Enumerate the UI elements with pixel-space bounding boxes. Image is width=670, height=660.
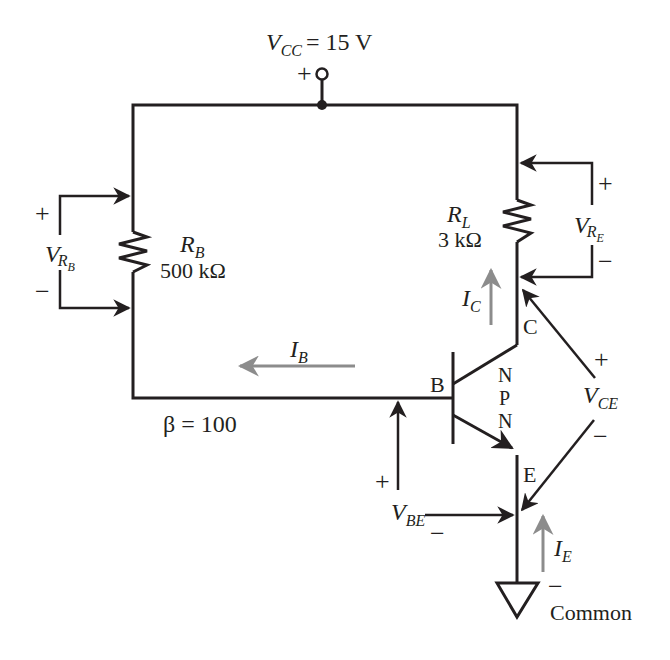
- ic-label: IC: [461, 285, 481, 315]
- ground-icon: [497, 583, 538, 617]
- vre-label: VRE: [574, 212, 604, 245]
- circuit-diagram: + VCC= 15 V RB 500 kΩ RL 3 kΩ + − VRB + …: [0, 0, 670, 660]
- collector-label: C: [523, 314, 538, 339]
- npn-letter-2: P: [499, 387, 510, 409]
- load-resistor: [503, 200, 531, 242]
- ie-label: IE: [553, 535, 572, 565]
- wires: [133, 105, 517, 583]
- vrb-plus: +: [35, 199, 50, 228]
- base-resistor: [119, 232, 147, 272]
- vbe-indicator: [398, 402, 513, 515]
- vce-label: VCE: [583, 382, 618, 412]
- npn-letter-1: N: [498, 364, 512, 386]
- rb-label: RB: [179, 231, 205, 261]
- vre-minus: −: [598, 247, 613, 276]
- base-label: B: [430, 372, 445, 397]
- vrb-minus: −: [35, 277, 50, 306]
- rb-value: 500 kΩ: [160, 258, 226, 283]
- vcc-plus: +: [297, 59, 312, 88]
- vce-minus: −: [593, 422, 608, 451]
- ground-minus: −: [548, 572, 563, 601]
- emitter-label: E: [523, 462, 536, 487]
- ib-label: IB: [289, 336, 308, 366]
- ground-label: Common: [550, 600, 632, 625]
- vrb-indicator: [60, 196, 129, 308]
- vbe-label: VBE: [391, 499, 425, 529]
- beta-label: β = 100: [163, 411, 237, 437]
- vrb-label: VRB: [45, 241, 75, 274]
- rl-value: 3 kΩ: [438, 227, 482, 252]
- vbe-minus: −: [430, 519, 445, 548]
- vbe-plus: +: [375, 467, 390, 496]
- vce-plus: +: [594, 345, 609, 374]
- vre-plus: +: [598, 169, 613, 198]
- npn-letter-3: N: [498, 410, 512, 432]
- vcc-label: VCC= 15 V: [266, 29, 373, 59]
